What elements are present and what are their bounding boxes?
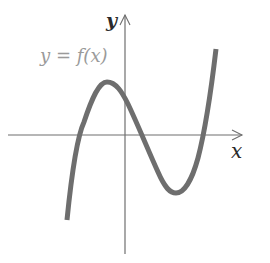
function-label: y = f(x) bbox=[39, 45, 108, 66]
y-axis-label: y bbox=[105, 9, 119, 31]
x-axis-label: x bbox=[231, 139, 242, 163]
function-graph: y x y = f(x) bbox=[0, 0, 270, 263]
